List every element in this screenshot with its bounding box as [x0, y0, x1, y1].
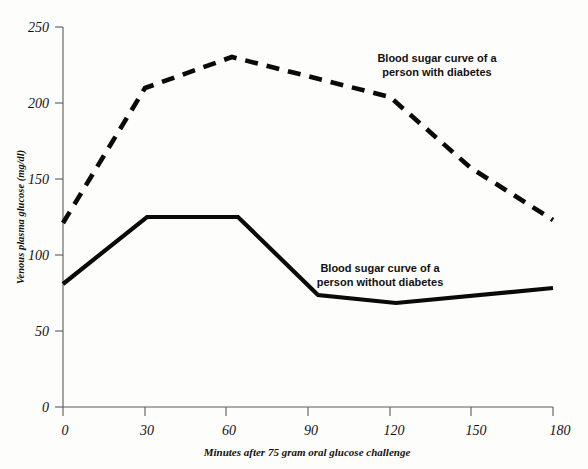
- annotation-diabetes: Blood sugar curve of a person with diabe…: [377, 52, 497, 78]
- y-tick-label-50: 50: [35, 324, 49, 339]
- series-line-nondiabetes: [63, 217, 553, 303]
- x-tick-label-180: 180: [550, 423, 571, 438]
- x-tick-label-150: 150: [466, 423, 487, 438]
- annotation-diabetes-line2: person with diabetes: [382, 66, 491, 78]
- x-tick-label-0: 0: [62, 423, 69, 438]
- x-tick-label-120: 120: [384, 423, 405, 438]
- y-tick-label-150: 150: [28, 172, 49, 187]
- x-tick-label-60: 60: [222, 423, 236, 438]
- x-axis-ticks: [63, 407, 553, 416]
- y-tick-label-100: 100: [28, 248, 49, 263]
- series-line-diabetes: [63, 57, 553, 223]
- x-tick-label-30: 30: [139, 423, 154, 438]
- y-axis-title: Venous plasma glucose (mg/dl): [15, 150, 27, 284]
- x-axis-title: Minutes after 75 gram oral glucose chall…: [203, 446, 411, 458]
- annotation-nondiabetes-line1: Blood sugar curve of a: [320, 262, 440, 274]
- y-tick-label-250: 250: [28, 20, 49, 35]
- annotation-nondiabetes-line2: person without diabetes: [317, 276, 444, 288]
- x-tick-label-90: 90: [304, 423, 318, 438]
- chart-svg: 0 50 100 150 200 250 0 30 60 90 120 150 …: [0, 0, 588, 469]
- y-tick-label-0: 0: [42, 400, 49, 415]
- chart-container: 0 50 100 150 200 250 0 30 60 90 120 150 …: [0, 0, 588, 469]
- y-tick-label-200: 200: [28, 96, 49, 111]
- y-axis-ticks: [55, 27, 63, 407]
- annotation-nondiabetes: Blood sugar curve of a person without di…: [317, 262, 444, 288]
- annotation-diabetes-line1: Blood sugar curve of a: [377, 52, 497, 64]
